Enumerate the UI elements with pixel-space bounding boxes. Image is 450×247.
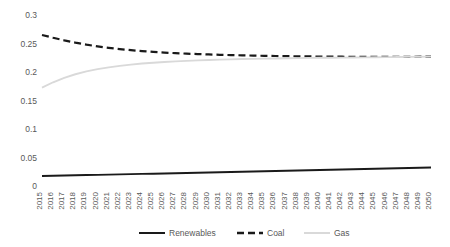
x-axis-tick-label: 2027 — [168, 191, 177, 209]
x-axis-tick-label: 2049 — [413, 191, 422, 209]
x-axis-tick-label: 2034 — [246, 191, 255, 209]
x-axis-tick-label: 2033 — [235, 191, 244, 209]
x-axis-tick-label: 2048 — [402, 191, 411, 209]
x-axis-tick-label: 2015 — [35, 191, 44, 209]
line-chart: 00.050.10.150.20.250.3 20152016201720182… — [0, 0, 450, 247]
x-axis-tick-label: 2022 — [113, 191, 122, 209]
x-axis-tick-label: 2043 — [346, 191, 355, 209]
x-axis-tick-label: 2041 — [324, 191, 333, 209]
x-axis-tick-label: 2025 — [146, 191, 155, 209]
x-axis-tick-label: 2024 — [135, 191, 144, 209]
x-axis-tick-label: 2039 — [302, 191, 311, 209]
y-axis-tick-label: 0.05 — [20, 153, 37, 163]
y-axis-tick-label: 0.15 — [20, 96, 37, 106]
x-axis-tick-label: 2026 — [157, 191, 166, 209]
x-axis-tick-label: 2028 — [179, 191, 188, 209]
x-axis-tick-label: 2030 — [202, 191, 211, 209]
y-axis-tick-label: 0.2 — [25, 67, 37, 77]
legend-label-renewables[interactable]: Renewables — [169, 228, 216, 238]
x-axis-tick-label: 2046 — [380, 191, 389, 209]
y-axis-tick-label: 0.3 — [25, 10, 37, 20]
y-axis-tick-label: 0.25 — [20, 39, 37, 49]
y-axis-tick-label: 0.1 — [25, 124, 37, 134]
x-axis-tick-label: 2032 — [224, 191, 233, 209]
x-axis-tick-label: 2020 — [91, 191, 100, 209]
x-axis-tick-label: 2035 — [257, 191, 266, 209]
x-axis-tick-label: 2029 — [191, 191, 200, 209]
legend-label-gas[interactable]: Gas — [334, 228, 350, 238]
legend-label-coal[interactable]: Coal — [267, 228, 285, 238]
x-axis-tick-label: 2047 — [391, 191, 400, 209]
x-axis-tick-label: 2037 — [280, 191, 289, 209]
chart-container: 00.050.10.150.20.250.3 20152016201720182… — [0, 0, 450, 247]
x-axis-tick-label: 2031 — [213, 191, 222, 209]
x-axis-tick-label: 2017 — [57, 191, 66, 209]
x-axis-tick-label: 2040 — [313, 191, 322, 209]
x-axis-tick-label: 2016 — [46, 191, 55, 209]
x-axis-tick-label: 2045 — [368, 191, 377, 209]
x-axis-tick-label: 2023 — [124, 191, 133, 209]
x-axis-tick-label: 2019 — [79, 191, 88, 209]
x-axis-tick-label: 2042 — [335, 191, 344, 209]
x-axis-tick-label: 2038 — [291, 191, 300, 209]
x-axis-tick-label: 2050 — [424, 191, 433, 209]
x-axis-tick-label: 2021 — [102, 191, 111, 209]
x-axis-tick-label: 2018 — [68, 191, 77, 209]
x-axis-tick-label: 2044 — [357, 191, 366, 209]
y-axis-tick-label: 0 — [32, 181, 37, 191]
x-axis-tick-label: 2036 — [268, 191, 277, 209]
